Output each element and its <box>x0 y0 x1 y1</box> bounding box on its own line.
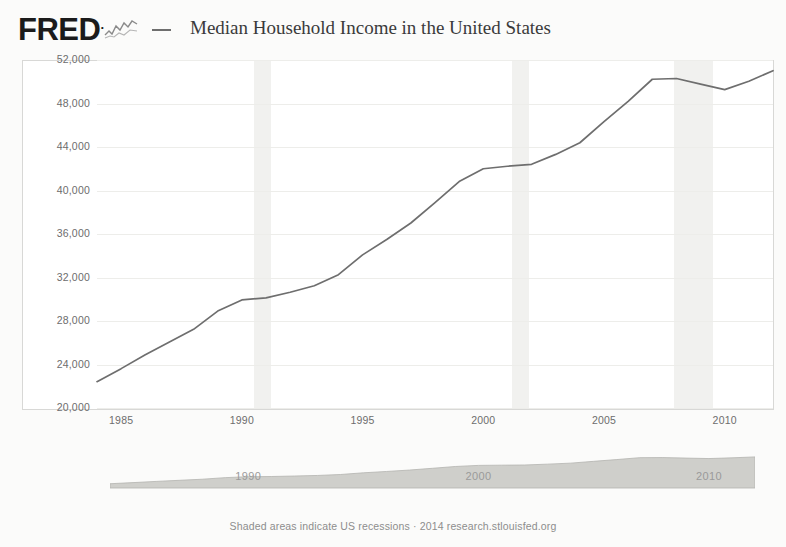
x-axis-tick-label: 2010 <box>713 414 737 426</box>
income-line-series <box>97 60 773 408</box>
y-axis-tick-label: 20,000 <box>28 401 90 413</box>
x-axis-tick-label: 1985 <box>109 414 133 426</box>
y-axis-tick-label: 32,000 <box>28 271 90 283</box>
y-axis-tick-label: 48,000 <box>28 97 90 109</box>
squiggle-chart-icon <box>104 19 138 39</box>
x-axis-tick-label: 2005 <box>592 414 616 426</box>
x-axis-tick-label: 1995 <box>350 414 374 426</box>
navigator-area-chart <box>110 448 755 490</box>
x-axis-tick-label: 1990 <box>230 414 254 426</box>
x-axis-tick-label: 2000 <box>471 414 495 426</box>
navigator-area-path <box>110 457 755 488</box>
navigator-tick-label: 2000 <box>466 470 492 482</box>
y-axis-tick-label: 40,000 <box>28 184 90 196</box>
y-axis-tick-label: 44,000 <box>28 140 90 152</box>
page-title: Median Household Income in the United St… <box>190 17 551 39</box>
chart-header: FRED. Median Household Income in the Uni… <box>0 0 786 52</box>
y-axis-tick-label: 24,000 <box>28 358 90 370</box>
navigator-tick-label: 1990 <box>235 470 261 482</box>
navigator-tick-label: 2010 <box>696 470 722 482</box>
y-axis-tick-label: 36,000 <box>28 227 90 239</box>
range-navigator[interactable]: 199020002010 <box>110 448 755 490</box>
gridline-horizontal <box>97 408 773 409</box>
y-axis-tick-label: 52,000 <box>28 53 90 65</box>
income-line-path <box>97 71 773 382</box>
y-axis-tick-label: 28,000 <box>28 314 90 326</box>
series-legend-line <box>152 29 171 31</box>
fred-logo: FRED. <box>18 12 104 48</box>
plot-area <box>97 60 773 408</box>
footer-source-note: Shaded areas indicate US recessions · 20… <box>0 520 786 532</box>
fred-logo-text: FRED <box>18 12 100 47</box>
